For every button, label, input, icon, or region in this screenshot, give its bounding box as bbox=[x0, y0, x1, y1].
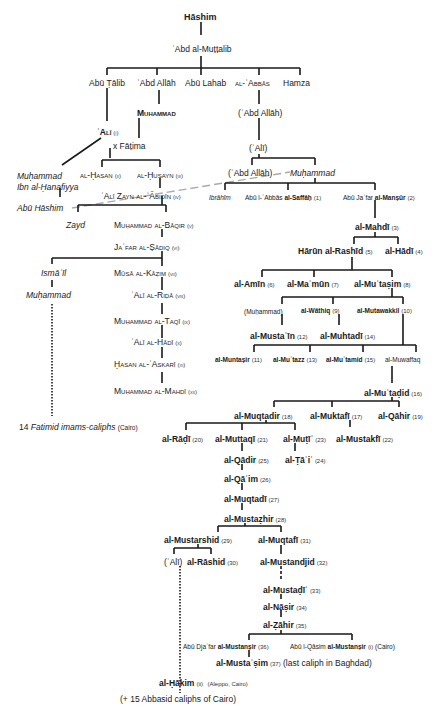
regnal-number: (27) bbox=[269, 497, 280, 503]
name: al-Qādir bbox=[224, 455, 256, 465]
regnal-number: (14) bbox=[365, 334, 376, 340]
name: al-Mahdī bbox=[355, 222, 389, 232]
node-al-muttaqi: al-Muttaqī(21) bbox=[215, 434, 268, 445]
place: (Cairo) bbox=[118, 424, 138, 431]
name: al-Mustakfī bbox=[336, 434, 380, 444]
name: al-Mustanṣir bbox=[218, 643, 256, 650]
node-ismaili-muhammad: Muḥammad bbox=[26, 290, 71, 300]
regnal-number: (3) bbox=[391, 225, 398, 231]
regnal-number: (v) bbox=[187, 223, 194, 229]
regnal-number: (ii) bbox=[196, 681, 203, 687]
regnal-number: (xii) bbox=[188, 389, 197, 395]
node-abd-allah-paren: (ʿAbd Allāh) bbox=[238, 108, 282, 118]
node-al-mutadid: al-Muʿtaḍid(16) bbox=[364, 388, 422, 399]
node-mustansir-baghdad: Abū Djaʿfar al-Mustanṣir(36) bbox=[183, 642, 269, 652]
regnal-number: (11) bbox=[252, 357, 262, 363]
regnal-number: (ix) bbox=[182, 319, 190, 325]
name: al-Ẓāhir bbox=[263, 620, 294, 630]
regnal-number: (30) bbox=[227, 560, 238, 566]
node-al-hadi: al-Hādī(4) bbox=[385, 246, 423, 257]
node-al-mustanjid: al-Mustandjid(32) bbox=[260, 557, 327, 568]
node-al-hasan: al-Ḥasan(ii) bbox=[80, 170, 121, 181]
regnal-number: (23) bbox=[315, 437, 326, 443]
name: al-Muttaqī bbox=[215, 434, 255, 444]
name: al-Mustanṣir bbox=[328, 643, 366, 650]
name: al-Nāṣir bbox=[263, 602, 294, 612]
node-al-sadiq: Jaʿfar al-Ṣādiq(vi) bbox=[114, 242, 179, 253]
name: Muḥammad al-Bāqir bbox=[114, 220, 185, 230]
node-al-qadir: al-Qādir(25) bbox=[224, 455, 269, 466]
note: (last caliph in Baghdad) bbox=[283, 658, 372, 668]
name: al-Muṭīʿ bbox=[283, 434, 313, 444]
node-al-qaim: al-Qāʾim(26) bbox=[224, 474, 271, 485]
node-ismail: Ismāʿīl bbox=[41, 268, 66, 278]
node-muhammad-prophet: Muhammad bbox=[137, 108, 176, 118]
node-zayd: Zayd bbox=[66, 220, 85, 230]
regnal-number: (17) bbox=[352, 414, 363, 420]
name: al-Muqtadir bbox=[234, 411, 280, 421]
regnal-number: (8) bbox=[403, 282, 410, 288]
node-al-muqtafi: al-Muqtafī(31) bbox=[258, 535, 311, 546]
node-al-mutawakkil: al-Mutawakkil(10) bbox=[357, 306, 412, 316]
name: ʿAlī al-Riḍā bbox=[131, 290, 173, 300]
node-hashim: Hāshim bbox=[184, 12, 217, 22]
node-al-askari: Ḥasan al-ʿAskarī(xi) bbox=[114, 359, 185, 370]
node-al-muktafi: al-Muktafī(17) bbox=[310, 411, 362, 422]
name: al-Muntaṣir bbox=[215, 356, 250, 363]
node-al-mutazz: al-Muʿtazz(13) bbox=[273, 355, 317, 365]
count: 14 bbox=[19, 422, 28, 432]
node-al-rida: ʿAlī al-Riḍā(viii) bbox=[131, 290, 185, 301]
name: al-Muqtafī bbox=[258, 535, 298, 545]
node-al-muqtadir: al-Muqtadir(18) bbox=[234, 411, 292, 422]
node-abd-allah-paren-2: (ʿAbd Allāh) bbox=[228, 168, 272, 178]
node-al-wathiq: al-Wāthiq(9) bbox=[301, 306, 340, 316]
node-al-hadi-imam: ʿAlī al-Hādī(x) bbox=[131, 337, 182, 348]
name: al-Muʿtaḍid bbox=[364, 388, 409, 398]
node-harun-al-rashid: Hārūn al-Rashīd(5) bbox=[298, 246, 373, 257]
name: al-Mustaʿīn bbox=[250, 331, 295, 341]
place: (Aleppo, Cairo) bbox=[207, 681, 247, 687]
node-abu-hashim: Abū Hāshim bbox=[17, 203, 63, 213]
node-muhammad-paren: (Muḥammad) bbox=[244, 307, 283, 317]
node-fatimids: 14 Fatimid imams-caliphs (Cairo) bbox=[19, 422, 138, 433]
regnal-number: (19) bbox=[412, 414, 423, 420]
regnal-number: (2) bbox=[408, 195, 415, 201]
node-abu-talib: Abū Ṭālib bbox=[89, 78, 125, 88]
name: al-Mustandjid bbox=[260, 557, 315, 567]
node-ibn-hanafiyya-2: Ibn al-Ḥanafiyya bbox=[17, 182, 78, 192]
regnal-number: (32) bbox=[317, 560, 328, 566]
node-al-mustain: al-Mustaʿīn(12) bbox=[250, 331, 308, 342]
node-al-qahir: al-Qāhir(19) bbox=[378, 411, 423, 422]
regnal-number: (28) bbox=[276, 517, 287, 523]
label: Fatimid imams-caliphs bbox=[31, 422, 116, 432]
node-zayn-al-abidin: ʿAlī Zayn al-ʿĀbidīn(iv) bbox=[101, 191, 181, 202]
node-al-rashid: al-Rāshid(30) bbox=[187, 557, 238, 568]
connector-lines bbox=[0, 0, 443, 706]
regnal-number: (12) bbox=[297, 334, 308, 340]
name: al-Rāshid bbox=[187, 557, 225, 567]
name: al-Manṣūr bbox=[375, 194, 406, 201]
name: Mūsā al-Kāẓim bbox=[114, 268, 166, 278]
node-al-baqir: Muḥammad al-Bāqir(v) bbox=[114, 220, 194, 231]
name: Ḥasan al-ʿAskarī bbox=[114, 359, 176, 369]
node-abd-al-muttalib: ʿAbd al-Muṭṭalib bbox=[172, 44, 232, 54]
name: al-Rāḍī bbox=[162, 434, 190, 444]
name: al-Qāʾim bbox=[224, 474, 258, 484]
regnal-number: (37) bbox=[270, 661, 281, 667]
name: Hārūn al-Rashīd bbox=[298, 246, 363, 256]
regnal-number: (i) bbox=[113, 130, 118, 136]
name: al-Mustaʿṣim bbox=[216, 658, 268, 668]
node-al-nasir: al-Nāṣir(34) bbox=[263, 602, 307, 613]
name: al-Mutawakkil bbox=[357, 307, 399, 314]
node-al-husayn: al-Ḥusayn(iii) bbox=[137, 170, 183, 181]
regnal-number: (15) bbox=[364, 357, 375, 363]
regnal-number: (25) bbox=[258, 458, 269, 464]
place: (Cairo) bbox=[375, 643, 395, 650]
regnal-number: (33) bbox=[310, 588, 321, 594]
node-ali-paren: (ʿAlī) bbox=[249, 143, 267, 153]
node-hamza: Hamza bbox=[283, 78, 310, 88]
node-abd-allah: ʿAbd Allāh bbox=[137, 78, 176, 88]
node-al-radi: al-Rāḍī(20) bbox=[162, 434, 203, 445]
node-al-tai: al-Ṭāʾiʿ(24) bbox=[285, 455, 326, 466]
regnal-number: (13) bbox=[306, 357, 317, 363]
